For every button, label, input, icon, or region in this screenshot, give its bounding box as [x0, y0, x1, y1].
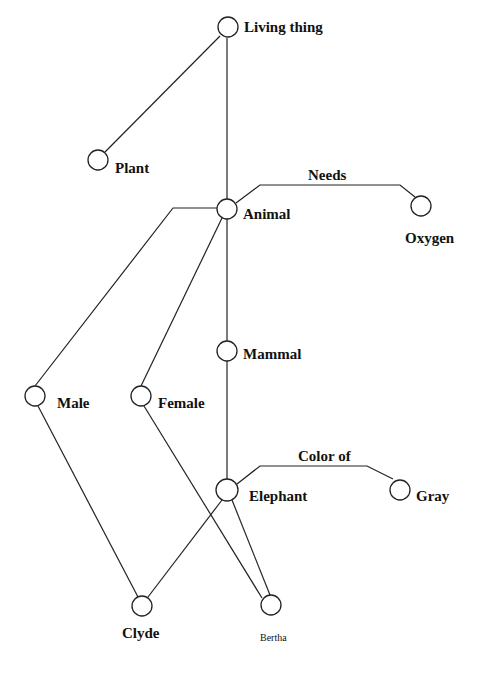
node-animal[interactable]: Animal: [217, 199, 291, 222]
edges: [35, 36, 415, 598]
edge-animal-needs-oxygen: [236, 185, 415, 203]
node-plant[interactable]: Plant: [88, 150, 149, 176]
node-label: Clyde: [122, 625, 160, 641]
node-circle[interactable]: [131, 386, 151, 406]
edge-animal-male: [35, 208, 217, 386]
node-label: Male: [57, 395, 90, 411]
node-oxygen[interactable]: Oxygen: [405, 196, 455, 246]
node-circle[interactable]: [218, 17, 238, 37]
node-label: Plant: [115, 160, 149, 176]
edge-living-thing-plant: [105, 36, 220, 152]
edge-animal-female: [141, 218, 222, 386]
edge-female-bertha: [144, 406, 262, 598]
node-label: Animal: [243, 206, 291, 222]
node-label: Bertha: [260, 632, 287, 643]
node-living-thing[interactable]: Living thing: [218, 17, 323, 37]
node-circle[interactable]: [132, 596, 152, 616]
node-label: Gray: [416, 488, 450, 504]
node-female[interactable]: Female: [131, 386, 205, 411]
node-label: Living thing: [244, 19, 323, 35]
node-bertha[interactable]: Bertha: [260, 595, 287, 643]
node-label: Elephant: [249, 488, 307, 504]
edge-elephant-color-of-gray: [237, 466, 393, 484]
node-mammal[interactable]: Mammal: [217, 341, 301, 362]
node-clyde[interactable]: Clyde: [122, 596, 160, 641]
edge-label-needs: Needs: [308, 167, 346, 183]
node-circle[interactable]: [216, 479, 238, 501]
node-label: Oxygen: [405, 230, 455, 246]
node-label: Mammal: [243, 346, 301, 362]
node-gray[interactable]: Gray: [390, 480, 450, 504]
node-male[interactable]: Male: [25, 386, 90, 411]
edge-label-color-of: Color of: [298, 448, 352, 464]
node-circle[interactable]: [390, 480, 410, 500]
node-circle[interactable]: [411, 196, 431, 216]
semantic-network-diagram: Needs Color of Living thing Plant Animal…: [0, 0, 493, 676]
node-elephant[interactable]: Elephant: [216, 479, 307, 504]
node-circle[interactable]: [25, 386, 45, 406]
node-circle[interactable]: [217, 341, 237, 361]
node-circle[interactable]: [261, 595, 281, 615]
node-circle[interactable]: [88, 150, 108, 170]
node-label: Female: [158, 395, 205, 411]
edge-male-clyde: [38, 406, 138, 597]
node-circle[interactable]: [217, 199, 237, 219]
